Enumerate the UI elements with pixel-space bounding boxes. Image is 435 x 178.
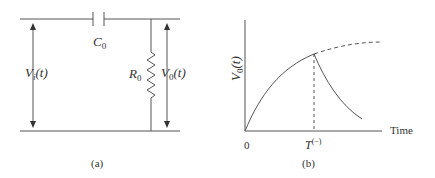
input-voltage-label: Vi(t) — [25, 65, 48, 82]
caption-a: (a) — [91, 157, 104, 170]
figure-canvas: C0 Vi(t) R0 V0(t) (a) V0(t) Time 0 T(−) … — [0, 0, 435, 178]
charging-continuation-dashed — [314, 42, 382, 54]
discharge-curve — [314, 54, 362, 119]
t-tick-label: T(−) — [305, 137, 322, 152]
input-arrow-head-up — [30, 23, 36, 30]
voltage-graph — [245, 20, 382, 131]
origin-tick-label: 0 — [244, 139, 250, 151]
x-axis-label: Time — [390, 124, 413, 136]
output-arrow-head-down — [164, 121, 170, 128]
charging-curve — [245, 54, 314, 131]
resistor-zigzag — [147, 52, 155, 98]
resistor-label: R0 — [128, 66, 142, 83]
capacitor-label: C0 — [93, 34, 107, 51]
input-arrow-head-down — [30, 121, 36, 128]
y-axis-label: V0(t) — [228, 56, 245, 81]
output-arrow-head-up — [164, 23, 170, 30]
output-voltage-label: V0(t) — [161, 65, 186, 82]
caption-b: (b) — [302, 157, 315, 170]
